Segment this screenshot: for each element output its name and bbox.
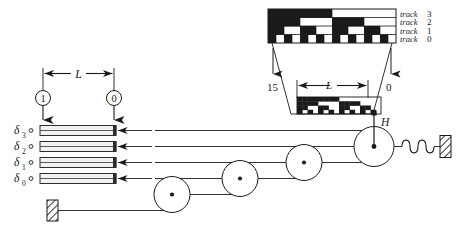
callout-dimension-label: L <box>325 79 332 91</box>
track-label-0-number: 0 <box>427 34 432 44</box>
read-head-label: H <box>380 116 390 128</box>
channel-subscript-3: 3 <box>22 131 26 140</box>
code-cell <box>380 35 388 44</box>
callout-right-index-label: 0 <box>386 81 392 93</box>
code-cell <box>318 97 324 102</box>
code-cell <box>297 101 303 106</box>
code-cell <box>339 106 345 111</box>
code-cell <box>268 35 276 44</box>
bottom-left-wall-anchor-icon <box>47 200 58 221</box>
code-cell <box>316 35 324 44</box>
code-cell <box>313 101 319 106</box>
code-cell <box>302 106 308 111</box>
track-label-0: track 0 <box>400 34 432 44</box>
code-cell <box>360 106 366 111</box>
code-cell <box>323 97 329 102</box>
code-cell <box>297 97 303 102</box>
code-cell <box>323 106 329 111</box>
code-cell <box>340 26 348 35</box>
code-cell <box>300 35 308 44</box>
diagram-svg: track 3 track 2 track 1 track 0 15 0 <box>0 0 457 234</box>
code-cell <box>284 35 292 44</box>
code-cell <box>332 26 340 35</box>
pulley-2-axle <box>238 176 242 180</box>
channel-subscript-1: 1 <box>22 163 26 172</box>
code-cell <box>268 26 276 35</box>
bottom-left-anchor <box>47 200 58 221</box>
code-cell <box>332 18 340 27</box>
code-cell <box>344 101 350 106</box>
channel-subscript-2: 2 <box>22 147 26 156</box>
code-cell <box>364 26 372 35</box>
code-cell <box>268 9 276 18</box>
figure-canvas: track 3 track 2 track 1 track 0 15 0 <box>0 0 457 234</box>
code-cell <box>355 101 361 106</box>
position-marker-1-label: 1 <box>40 93 45 104</box>
pulley-1-axle <box>170 192 174 196</box>
code-cell <box>332 35 340 44</box>
code-cell <box>302 97 308 102</box>
channel-label-delta-3: δ <box>14 124 20 136</box>
code-cell <box>348 18 356 27</box>
code-cell <box>324 9 332 18</box>
track-label-0-word: track <box>400 34 418 44</box>
pulley-2 <box>222 161 258 197</box>
code-cell <box>300 9 308 18</box>
pulley-3 <box>286 145 322 181</box>
channel-label-delta-1: δ <box>14 156 20 168</box>
code-cell <box>292 18 300 27</box>
code-cell <box>372 26 380 35</box>
code-cell <box>334 97 340 102</box>
code-cell <box>276 18 284 27</box>
code-cell <box>308 97 314 102</box>
read-head-tip <box>372 111 377 116</box>
code-cell <box>344 106 350 111</box>
channel-label-delta-0: δ <box>14 172 20 184</box>
code-cell <box>276 9 284 18</box>
code-cell <box>308 101 314 106</box>
code-cell <box>284 18 292 27</box>
code-cell <box>300 26 308 35</box>
code-cell <box>297 106 303 111</box>
code-cell <box>276 26 284 35</box>
pulley-3-axle <box>302 160 306 164</box>
pulley-1 <box>154 177 190 213</box>
position-marker-0-label: 0 <box>111 93 116 104</box>
code-cell <box>348 35 356 44</box>
code-cell <box>329 97 335 102</box>
code-cell <box>340 18 348 27</box>
channel-bar-1-cap <box>113 158 116 168</box>
code-cell <box>316 9 324 18</box>
code-cell <box>318 106 324 111</box>
code-cell <box>284 9 292 18</box>
right-wall-anchor-icon <box>440 136 451 158</box>
channel-bar-2-cap <box>113 142 116 152</box>
channel-subscript-0: 0 <box>22 179 26 188</box>
code-cell <box>308 26 316 35</box>
code-cell <box>308 9 316 18</box>
track-label-group: track 3 track 2 track 1 track 0 <box>400 9 432 45</box>
channel-bar-0-cap <box>113 174 116 184</box>
code-cell <box>350 101 356 106</box>
code-cell <box>313 97 319 102</box>
callout-left-index-label: 15 <box>267 81 279 93</box>
code-cell <box>292 9 300 18</box>
code-cell <box>339 101 345 106</box>
code-cell <box>302 101 308 106</box>
code-cell <box>356 18 364 27</box>
code-cell <box>364 35 372 44</box>
code-cell <box>365 106 371 111</box>
channel-label-delta-2: δ <box>14 140 20 152</box>
channel-bar-3-cap <box>113 126 116 136</box>
dimension-label-L: L <box>74 67 82 81</box>
code-cell <box>268 18 276 27</box>
